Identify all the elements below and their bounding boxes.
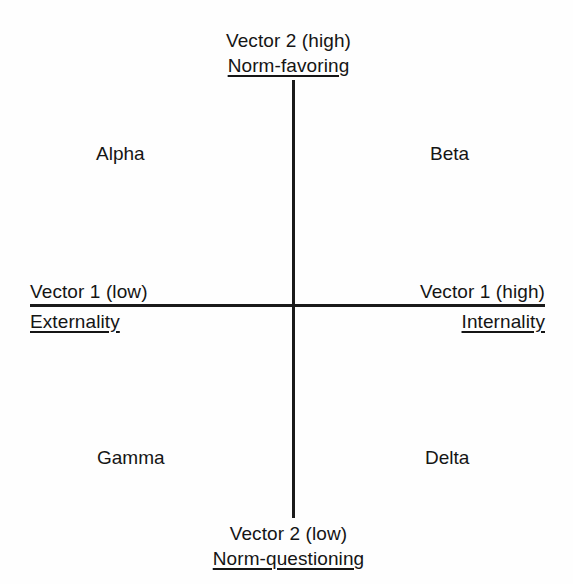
horizontal-axis-right-label-line2: Internality	[0, 309, 545, 334]
quadrant-label-lower-right: Delta	[425, 446, 469, 470]
vertical-axis-bottom-label-line1: Vector 2 (low)	[4, 521, 573, 546]
vertical-axis-bottom-label: Vector 2 (low) Norm-questioning	[4, 521, 573, 571]
vertical-axis-top-label-line2: Norm-favoring	[4, 53, 573, 78]
quadrant-label-upper-right: Beta	[430, 142, 469, 166]
quadrant-label-upper-left: Alpha	[96, 142, 145, 166]
horizontal-axis-right-label-line1: Vector 1 (high)	[0, 279, 545, 304]
vertical-axis-bottom-label-line2: Norm-questioning	[4, 546, 573, 571]
vertical-axis-top-label-line1: Vector 2 (high)	[4, 28, 573, 53]
quadrant-label-lower-left: Gamma	[97, 446, 165, 470]
horizontal-axis-right-label: Vector 1 (high) Internality	[0, 279, 545, 334]
vertical-axis-top-label: Vector 2 (high) Norm-favoring	[4, 28, 573, 78]
quadrant-diagram: Vector 2 (high) Norm-favoring Vector 2 (…	[0, 0, 573, 584]
